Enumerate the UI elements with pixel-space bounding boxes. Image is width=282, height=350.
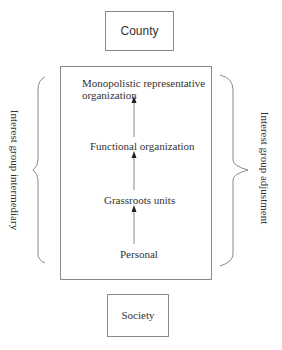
right-brace-icon (220, 75, 248, 266)
right-brace-label: Interest group adjustment (259, 112, 271, 224)
arrowhead-icon (132, 96, 137, 103)
left-brace-label: Interest group intermediary (9, 110, 21, 230)
connectors (0, 0, 282, 350)
arrowhead-icon (132, 151, 137, 158)
left-brace-icon (33, 77, 45, 263)
arrowhead-icon (132, 205, 137, 212)
